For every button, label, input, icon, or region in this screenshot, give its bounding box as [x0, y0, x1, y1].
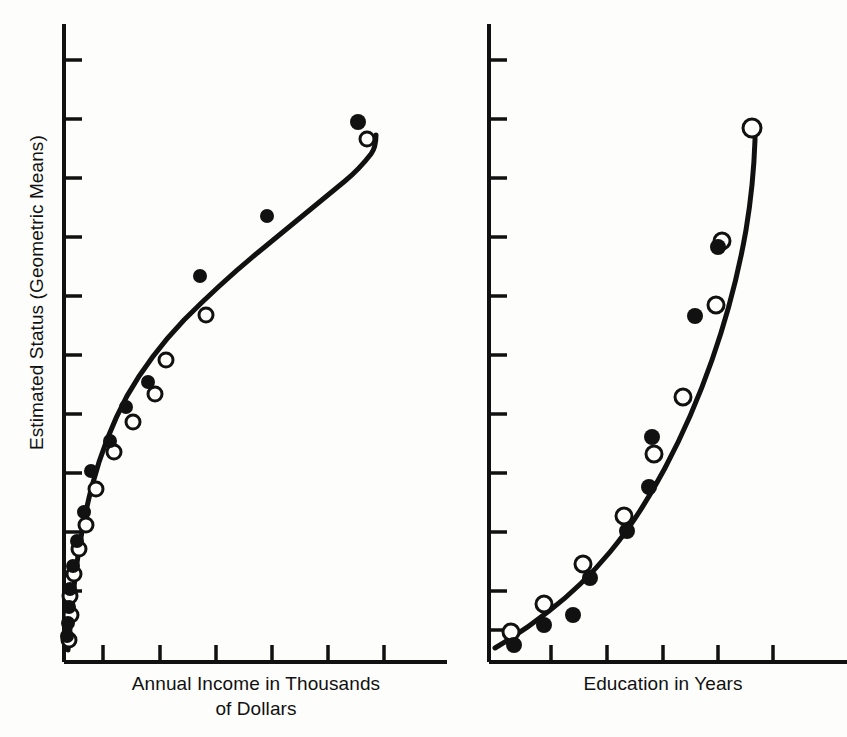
left-open-circles: [62, 132, 374, 647]
right-x-axis-label: Education in Years: [583, 673, 742, 694]
right-fitted-curve: [495, 128, 755, 648]
left-x-axis-label-line2: of Dollars: [215, 698, 296, 719]
figure-container: Estimated Status (Geometric Means): [0, 0, 847, 737]
left-x-axis-label-line1: Annual Income in Thousands: [132, 673, 380, 694]
left-fitted-curve: [68, 135, 376, 650]
y-axis-label: Estimated Status (Geometric Means): [26, 135, 47, 450]
right-x-ticks: [551, 645, 773, 662]
left-panel: Annual Income in Thousands of Dollars: [60, 24, 447, 719]
left-filled-circles: [60, 114, 366, 643]
right-y-ticks: [489, 60, 507, 630]
right-filled-circles: [506, 239, 726, 653]
two-panel-scatter-figure: Estimated Status (Geometric Means): [0, 0, 847, 737]
right-panel: Education in Years: [489, 24, 847, 694]
left-x-ticks: [103, 645, 384, 662]
right-open-circles: [503, 119, 761, 640]
